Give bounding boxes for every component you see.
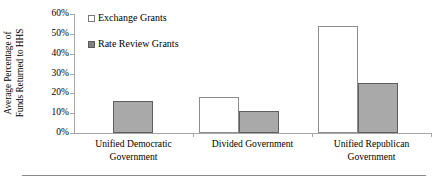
bar-chart-figure: Average Percentage of Funds Returned to … — [0, 0, 442, 185]
x-axis-label-unified-republican: Unified Republican Government — [312, 138, 431, 163]
y-axis-title: Average Percentage of Funds Returned to … — [3, 5, 37, 141]
x-axis-line — [74, 133, 432, 134]
y-tick-label-40: 40% — [52, 49, 69, 59]
legend-label-rate-review-grants: Rate Review Grants — [98, 39, 179, 49]
y-tick-label-20: 20% — [52, 89, 69, 99]
bar-rate-review-divided — [239, 111, 279, 133]
filled-square-icon — [88, 41, 95, 48]
y-tick-label-30: 30% — [52, 69, 69, 79]
y-axis-line — [74, 14, 75, 133]
y-tick-label-60: 60% — [52, 9, 69, 19]
y-tick-label-0: 0% — [56, 128, 69, 138]
bar-rate-review-unified-democratic — [113, 101, 153, 133]
legend-label-exchange-grants: Exchange Grants — [98, 13, 167, 23]
bar-exchange-unified-republican — [318, 26, 358, 133]
x-tick-boundary-1 — [193, 133, 194, 137]
y-axis-title-line-2: Funds Returned to HHS — [15, 5, 27, 141]
x-tick-boundary-3 — [431, 133, 432, 137]
x-tick-boundary-2 — [312, 133, 313, 137]
legend-item-rate-review-grants: Rate Review Grants — [88, 38, 179, 50]
legend-item-exchange-grants: Exchange Grants — [88, 12, 179, 24]
open-square-icon — [88, 15, 95, 22]
y-tick-label-10: 10% — [52, 108, 69, 118]
y-tick-label-50: 50% — [52, 29, 69, 39]
bar-exchange-divided — [199, 97, 239, 133]
x-axis-label-unified-democratic: Unified Democratic Government — [74, 138, 193, 163]
bottom-divider — [22, 175, 426, 176]
bar-rate-review-unified-republican — [358, 83, 398, 133]
chart-legend: Exchange Grants Rate Review Grants — [88, 12, 179, 64]
x-axis-label-divided: Divided Government — [193, 138, 312, 151]
y-axis-title-line-1: Average Percentage of — [3, 5, 15, 141]
